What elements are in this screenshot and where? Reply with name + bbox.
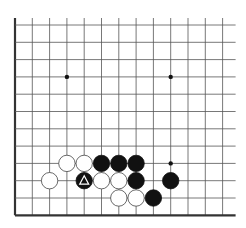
star-point-icon xyxy=(169,75,173,79)
go-board[interactable] xyxy=(0,0,246,228)
star-point-icon xyxy=(169,161,173,165)
black-stone[interactable] xyxy=(76,173,92,189)
black-stone[interactable] xyxy=(145,190,161,206)
white-stone[interactable] xyxy=(41,173,57,189)
white-stone[interactable] xyxy=(111,173,127,189)
white-stone[interactable] xyxy=(111,190,127,206)
black-stone[interactable] xyxy=(111,155,127,171)
white-stone[interactable] xyxy=(93,173,109,189)
white-stone[interactable] xyxy=(59,155,75,171)
black-stone[interactable] xyxy=(128,173,144,189)
white-stone[interactable] xyxy=(76,155,92,171)
black-stone[interactable] xyxy=(163,173,179,189)
black-stone[interactable] xyxy=(128,155,144,171)
white-stone[interactable] xyxy=(128,190,144,206)
star-point-icon xyxy=(65,75,69,79)
black-stone[interactable] xyxy=(93,155,109,171)
